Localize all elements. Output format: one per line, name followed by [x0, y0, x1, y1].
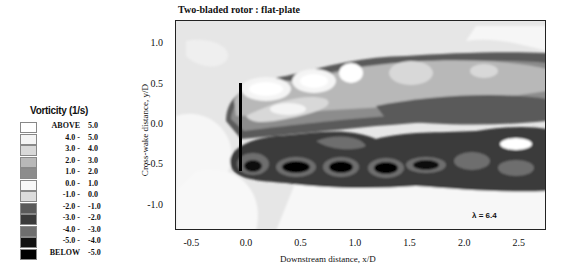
legend-upper-bound: -2.0 — [88, 213, 101, 222]
y-tick-label: 0.0 — [133, 118, 163, 129]
chart-title: Two-bladed rotor : flat-plate — [178, 4, 300, 15]
legend-swatch — [20, 168, 37, 179]
y-tick-label: 1.0 — [133, 37, 163, 48]
vorticity-contour-plot: λ = 6.4 — [175, 20, 546, 230]
x-axis-label: Downstream distance, x/D — [280, 254, 376, 264]
legend-upper-bound: -1.0 — [88, 202, 101, 211]
legend-lower-bound: 3.0 - — [44, 144, 80, 153]
legend-lower-bound: -4.0 - — [44, 225, 80, 234]
legend-entry: -5.0 --4.0 — [20, 237, 130, 248]
lambda-annotation: λ = 6.4 — [472, 211, 497, 220]
x-tick-label: 1.5 — [395, 237, 425, 248]
legend-swatch — [20, 214, 37, 225]
legend-lower-bound: -3.0 - — [44, 213, 80, 222]
legend-entry: -4.0 --3.0 — [20, 226, 130, 237]
legend-upper-bound: 2.0 — [88, 167, 98, 176]
legend-upper-bound: 5.0 — [88, 121, 98, 130]
legend-lower-bound: 0.0 - — [44, 179, 80, 188]
legend-lower-bound: ABOVE — [44, 121, 80, 130]
legend-lower-bound: 2.0 - — [44, 156, 80, 165]
contour-field — [176, 21, 546, 230]
legend-upper-bound: 4.0 — [88, 144, 98, 153]
legend-swatch — [20, 122, 37, 133]
legend-lower-bound: BELOW — [44, 248, 80, 257]
legend-swatch — [20, 237, 37, 248]
legend-entry: BELOW-5.0 — [20, 249, 130, 260]
legend-entry: -1.0 -0.0 — [20, 191, 130, 202]
legend-swatch — [20, 226, 37, 237]
x-tick-label: -0.5 — [176, 237, 206, 248]
legend-lower-bound: 1.0 - — [44, 167, 80, 176]
legend-entry: -2.0 --1.0 — [20, 203, 130, 214]
legend-entry: 0.0 -1.0 — [20, 180, 130, 191]
legend-swatch — [20, 191, 37, 202]
legend-lower-bound: 4.0 - — [44, 133, 80, 142]
legend-lower-bound: -2.0 - — [44, 202, 80, 211]
legend-upper-bound: 0.0 — [88, 190, 98, 199]
legend-lower-bound: -1.0 - — [44, 190, 80, 199]
legend-title: Vorticity (1/s) — [30, 105, 88, 116]
legend-swatch — [20, 180, 37, 191]
legend-upper-bound: -3.0 — [88, 225, 101, 234]
legend-swatch — [20, 145, 37, 156]
legend-entry: 4.0 -5.0 — [20, 134, 130, 145]
y-tick-label: -1.0 — [133, 199, 163, 210]
legend-entry: 2.0 -3.0 — [20, 157, 130, 168]
legend-lower-bound: -5.0 - — [44, 236, 80, 245]
x-tick-label: 0.5 — [285, 237, 315, 248]
legend-swatch — [20, 203, 37, 214]
legend-upper-bound: 5.0 — [88, 133, 98, 142]
legend-entry: 1.0 -2.0 — [20, 168, 130, 179]
x-tick-label: 2.0 — [449, 237, 479, 248]
legend-upper-bound: 3.0 — [88, 156, 98, 165]
x-tick-label: 0.0 — [231, 237, 261, 248]
legend-swatch — [20, 134, 37, 145]
x-tick-label: 1.0 — [340, 237, 370, 248]
x-tick-label: 2.5 — [504, 237, 534, 248]
legend-swatch — [20, 157, 37, 168]
y-tick-label: -0.5 — [133, 158, 163, 169]
legend-entry: 3.0 -4.0 — [20, 145, 130, 156]
legend-upper-bound: -5.0 — [88, 248, 101, 257]
y-tick-label: 0.5 — [133, 78, 163, 89]
legend-swatch — [20, 249, 37, 260]
legend-upper-bound: 1.0 — [88, 179, 98, 188]
legend-entry: -3.0 --2.0 — [20, 214, 130, 225]
legend-entry: ABOVE5.0 — [20, 122, 130, 133]
rotor-line — [239, 83, 242, 171]
legend-upper-bound: -4.0 — [88, 236, 101, 245]
